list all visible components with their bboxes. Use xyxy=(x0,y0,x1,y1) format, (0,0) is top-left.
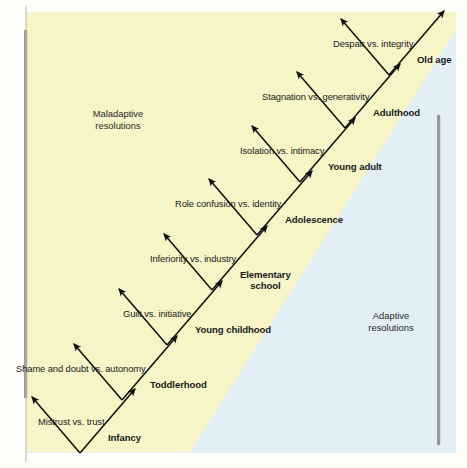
adaptive-line-1: Adaptive xyxy=(341,310,441,322)
crisis-label: Shame and doubt vs. autonomy xyxy=(16,364,146,374)
stage-name-label: Infancy xyxy=(108,433,141,444)
adaptive-line-2: resolutions xyxy=(341,322,441,334)
adaptive-region-label: Adaptive resolutions xyxy=(341,310,441,335)
stage-name-label: Adulthood xyxy=(373,108,420,119)
figure-canvas: Mistrust vs. trustInfancyShame and doubt… xyxy=(0,0,467,468)
crisis-label: Inferiority vs. industry xyxy=(150,254,236,264)
crisis-label: Stagnation vs. generativity xyxy=(262,92,369,102)
right-gray-bar xyxy=(437,115,440,445)
crisis-label: Isolation vs. intimacy xyxy=(240,146,324,156)
stage-name-label: Young adult xyxy=(328,162,382,173)
stage-name-label: Young childhood xyxy=(195,325,271,336)
diagram-svg xyxy=(0,0,467,468)
maladaptive-region-label: Maladaptive resolutions xyxy=(63,108,173,133)
maladaptive-line-2: resolutions xyxy=(63,120,173,132)
stage-name-label: Toddlerhood xyxy=(150,380,207,391)
stage-name-label: Elementaryschool xyxy=(240,270,291,291)
maladaptive-line-1: Maladaptive xyxy=(63,108,173,120)
stage-name-label: Adolescence xyxy=(285,215,343,226)
crisis-label: Role confusion vs. identity xyxy=(175,199,281,209)
crisis-label: Despair vs. integrity xyxy=(333,39,413,49)
stage-name-label: Old age xyxy=(417,55,452,66)
crisis-label: Guilt vs. initiative xyxy=(123,309,191,319)
crisis-label: Mistrust vs. trust xyxy=(38,417,104,427)
